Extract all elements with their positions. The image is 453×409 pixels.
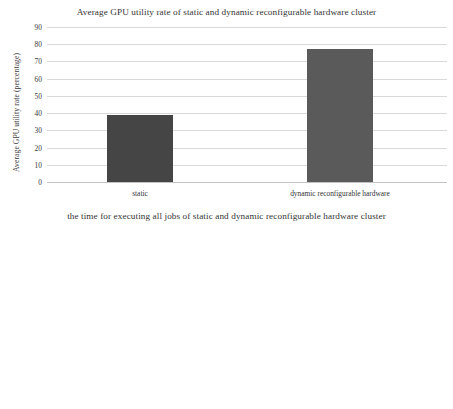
y-tick-label: 50: [35, 91, 47, 100]
y-tick-label: 60: [35, 74, 47, 83]
y-tick-label: 40: [35, 109, 47, 118]
bar: [107, 115, 173, 182]
bar: [307, 49, 373, 182]
gridline: [47, 79, 447, 80]
gridline: [47, 27, 447, 28]
y-tick-label: 30: [35, 126, 47, 135]
y-tick-label: 90: [35, 23, 47, 32]
y-tick-label: 10: [35, 160, 47, 169]
y-axis-title: Average GPU utility rate (percentage): [12, 53, 21, 172]
y-tick-label: 20: [35, 143, 47, 152]
x-category-label: static: [132, 189, 148, 198]
chart-title: Average GPU utility rate of static and d…: [0, 7, 453, 18]
gridline: [47, 96, 447, 97]
y-tick-label: 80: [35, 40, 47, 49]
axis-baseline: [47, 182, 447, 183]
gridline: [47, 61, 447, 62]
gridline: [47, 44, 447, 45]
y-tick-label: 0: [38, 178, 47, 187]
job-execution-time-chart: the time for executing all jobs of stati…: [0, 205, 453, 409]
x-category-label: dynamic reconfigurable hardware: [290, 189, 390, 198]
gpu-utility-rate-chart: Average GPU utility rate of static and d…: [0, 0, 453, 205]
plot-area: 0102030405060708090: [47, 27, 447, 182]
y-tick-label: 70: [35, 57, 47, 66]
chart-title: the time for executing all jobs of stati…: [0, 211, 453, 222]
